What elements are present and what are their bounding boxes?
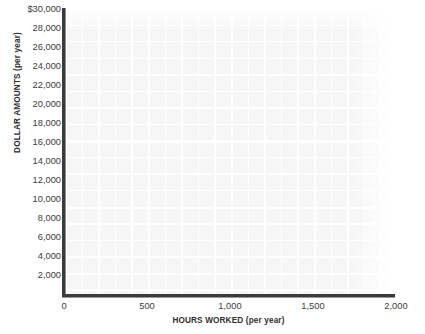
y-tick-label: 4,000 bbox=[0, 251, 61, 261]
y-tick-label: 24,000 bbox=[0, 61, 61, 71]
x-tick-label: 0 bbox=[61, 301, 66, 312]
x-tick-label: 1,500 bbox=[301, 301, 324, 312]
x-axis-line bbox=[62, 294, 395, 298]
y-tick-label: 14,000 bbox=[0, 156, 61, 166]
y-tick-label: 18,000 bbox=[0, 118, 61, 128]
x-tick-label: 500 bbox=[139, 301, 155, 312]
major-gridlines bbox=[65, 8, 397, 296]
y-tick-label: 26,000 bbox=[0, 42, 61, 52]
plot-top-fade bbox=[65, 8, 397, 30]
y-axis-tick-labels: $30,000 28,000 26,000 24,000 22,000 20,0… bbox=[0, 0, 61, 300]
y-tick-label: 12,000 bbox=[0, 175, 61, 185]
y-tick-label: 10,000 bbox=[0, 194, 61, 204]
y-tick-label: 20,000 bbox=[0, 99, 61, 109]
x-axis-title: HOURS WORKED (per year) bbox=[62, 316, 395, 325]
y-tick-label: 28,000 bbox=[0, 23, 61, 33]
y-tick-label: 2,000 bbox=[0, 270, 61, 280]
x-axis-tick-labels: 0 500 1,000 1,500 2,000 bbox=[0, 301, 425, 315]
y-axis-line bbox=[62, 8, 66, 297]
plot-right-fade bbox=[351, 8, 397, 296]
y-tick-label: 16,000 bbox=[0, 137, 61, 147]
plot-area bbox=[65, 8, 397, 296]
y-tick-label: 22,000 bbox=[0, 80, 61, 90]
y-tick-label: $30,000 bbox=[0, 4, 61, 14]
chart-container: DOLLAR AMOUNTS (per year) $30,000 28,000… bbox=[0, 0, 425, 334]
y-tick-label: 6,000 bbox=[0, 232, 61, 242]
x-tick-label: 2,000 bbox=[384, 301, 407, 312]
y-tick-label: 8,000 bbox=[0, 213, 61, 223]
x-tick-label: 1,000 bbox=[218, 301, 241, 312]
